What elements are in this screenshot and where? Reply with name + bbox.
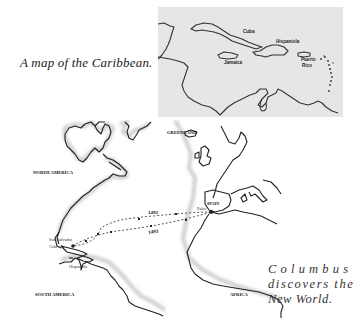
caribbean-map-caption: A map of the Caribbean. <box>20 55 160 71</box>
caribbean-map-graphic: Cuba Hispaniola Jamaica Puerto Rico <box>158 7 343 117</box>
label-route-1492: 1492 <box>148 210 159 215</box>
columbus-caption: Columbus discovers the New World. <box>268 262 358 307</box>
label-greenland: GREENLAND <box>167 130 197 135</box>
caribbean-map: Cuba Hispaniola Jamaica Puerto Rico <box>158 7 343 117</box>
label-palos: Palos <box>197 206 206 211</box>
columbus-caption-line1: Columbus <box>268 262 358 277</box>
label-north-america: NORTH AMERICA <box>33 170 74 175</box>
label-spain: SPAIN <box>207 201 219 206</box>
label-cuba: Cuba <box>243 29 255 34</box>
label-route-1493: 1493 <box>148 229 159 235</box>
label-san-salvador: San Salvador <box>49 237 73 242</box>
label-jamaica: Jamaica <box>224 60 243 65</box>
label-hispaniola: Hispaniola <box>276 39 300 44</box>
label-puerto-rico-line2: Rico <box>302 63 312 68</box>
label-africa: AFRICA <box>230 292 249 297</box>
label-cuba: Cuba <box>49 245 57 249</box>
columbus-caption-line3: New World. <box>268 292 358 307</box>
label-south-america: SOUTH AMERICA <box>35 292 75 297</box>
columbus-caption-line2: discovers the <box>268 277 358 292</box>
label-hispaniola: Hispaniola <box>69 264 87 269</box>
label-puerto-rico-line1: Puerto <box>301 57 316 62</box>
